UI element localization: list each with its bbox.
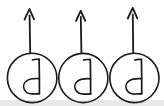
arrow-shaft-1: [30, 16, 31, 53]
figure-canvas: Three circled handwritten d glyphs each …: [0, 0, 164, 106]
d-stem-hook-2: [84, 59, 91, 60]
d-stem-hook-3: [135, 59, 142, 60]
arrow-shaft-2: [81, 17, 82, 53]
hand-drawn-diagram: [0, 0, 164, 106]
d-stem-hook-1: [32, 59, 39, 60]
